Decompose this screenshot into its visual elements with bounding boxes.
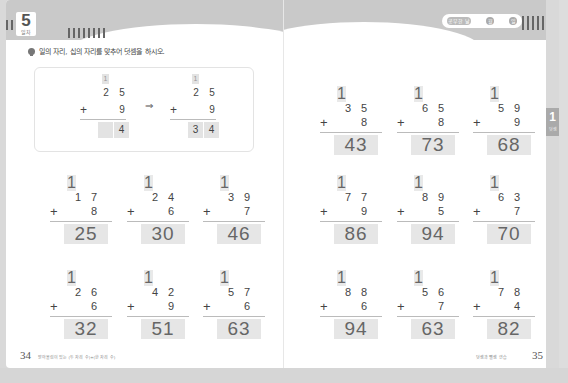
tens-digit: 8 (417, 191, 433, 203)
problem-15: 1 78 + 4 82 (473, 270, 539, 340)
sum-line (397, 316, 459, 317)
addend-bottom: 7 (509, 205, 525, 217)
addend-top: 65 (417, 102, 457, 114)
carry-box: 1 (414, 86, 423, 102)
answer-box[interactable]: 86 (334, 224, 378, 244)
answer-tens[interactable]: 3 (188, 122, 203, 138)
tens-digit: 3 (340, 102, 356, 114)
answer-box[interactable]: 68 (487, 135, 531, 155)
addend-top: 24 (147, 191, 187, 203)
carry-box: 1 (220, 270, 229, 286)
answer-box[interactable]: 94 (334, 319, 378, 339)
tens-digit: 5 (417, 286, 433, 298)
problem-13: 1 88 + 6 94 (320, 270, 386, 340)
tens-digit: 7 (340, 191, 356, 203)
answer-box[interactable]: 63 (217, 319, 261, 339)
tens-digit: 2 (147, 191, 163, 203)
ones-digit: 2 (163, 286, 179, 298)
plus-sign: + (320, 115, 328, 130)
addend-bottom: 4 (509, 300, 525, 312)
tens-digit: 2 (98, 87, 114, 98)
addend-top: 89 (417, 191, 457, 203)
sum-line (80, 119, 126, 120)
addend-top: 25 (188, 87, 220, 98)
plus-sign: + (320, 204, 328, 219)
chapter-tab[interactable]: 1 덧셈 (546, 108, 559, 136)
book-shadow (0, 368, 568, 383)
answer-box[interactable]: 46 (217, 224, 261, 244)
answer-tens[interactable] (98, 122, 113, 138)
addend-bottom: 8 (356, 116, 372, 128)
left-page: 5 일차 일의 자리, 십의 자리를 맞추어 덧셈을 하시오. 1 25 + 9… (6, 0, 284, 368)
answer-box[interactable]: 94 (411, 224, 455, 244)
addend-top: 17 (70, 191, 110, 203)
answer-box[interactable]: 43 (334, 135, 378, 155)
answer-box[interactable]: 30 (141, 224, 185, 244)
addend-bottom: 9 (509, 116, 525, 128)
tens-digit: 7 (493, 286, 509, 298)
answer-box[interactable]: 70 (487, 224, 531, 244)
sum-line (127, 316, 189, 317)
ones-digit: 9 (509, 102, 525, 114)
carry-box: 1 (67, 175, 76, 191)
problem-11: 1 89 + 5 94 (397, 175, 463, 245)
instruction-text: 일의 자리, 십의 자리를 맞추어 덧셈을 하시오. (39, 46, 165, 56)
sum-line (397, 221, 459, 222)
tens-digit: 5 (493, 102, 509, 114)
page-edge (559, 0, 568, 368)
addend-bottom: 6 (356, 300, 372, 312)
carry-box: 1 (490, 86, 499, 102)
problem-7: 1 35 + 8 43 (320, 86, 386, 156)
carry-box: 1 (490, 175, 499, 191)
lesson-label: 일차 (16, 29, 36, 35)
answer-ones[interactable]: 4 (204, 122, 219, 138)
ones-digit: 7 (356, 191, 372, 203)
ones-digit: 7 (86, 191, 102, 203)
addend-bottom: 5 (433, 205, 449, 217)
sum-line (127, 221, 189, 222)
addend-top: 63 (493, 191, 533, 203)
sum-line (203, 316, 265, 317)
month-field[interactable]: 월 (486, 17, 494, 25)
tens-digit: 2 (70, 286, 86, 298)
tens-digit: 6 (493, 191, 509, 203)
lesson-number: 5 (16, 12, 36, 29)
problem-14: 1 56 + 7 63 (397, 270, 463, 340)
answer-box[interactable]: 51 (141, 319, 185, 339)
ones-digit: 6 (86, 286, 102, 298)
answer-ones[interactable]: 4 (114, 122, 129, 138)
fence-illustration (522, 16, 546, 30)
ones-digit: 5 (433, 102, 449, 114)
carry-box: 1 (414, 175, 423, 191)
ones-digit: 9 (239, 191, 255, 203)
answer-box[interactable]: 32 (64, 319, 108, 339)
answer-box[interactable]: 25 (64, 224, 108, 244)
arrow-right-icon: ⇒ (145, 100, 153, 111)
addend-top: 59 (493, 102, 533, 114)
answer-box[interactable]: 63 (411, 319, 455, 339)
plus-sign: + (320, 299, 328, 314)
day-field[interactable]: 일 (509, 17, 517, 25)
carry-box: 1 (337, 175, 346, 191)
sum-line (50, 316, 112, 317)
plus-sign: + (50, 299, 58, 314)
addend-top: 57 (223, 286, 263, 298)
lightbulb-icon (28, 48, 35, 55)
ones-digit: 7 (239, 286, 255, 298)
problem-8: 1 65 + 8 73 (397, 86, 463, 156)
addend-top: 25 (98, 87, 130, 98)
addend-top: 39 (223, 191, 263, 203)
sum-line (397, 132, 459, 133)
carry-box: 1 (67, 270, 76, 286)
answer-box[interactable]: 73 (411, 135, 455, 155)
ones-digit: 5 (114, 87, 130, 98)
addend-top: 78 (493, 286, 533, 298)
sum-line (473, 132, 535, 133)
answer-boxes: 34 (188, 122, 219, 138)
addend-bottom: 9 (114, 104, 130, 115)
tens-digit: 1 (70, 191, 86, 203)
sum-line (320, 221, 382, 222)
answer-box[interactable]: 82 (487, 319, 531, 339)
footer-text: 받아올림이 있는 (두 자리 수)+(한 자리 수) (38, 354, 115, 360)
addend-bottom: 6 (163, 205, 179, 217)
